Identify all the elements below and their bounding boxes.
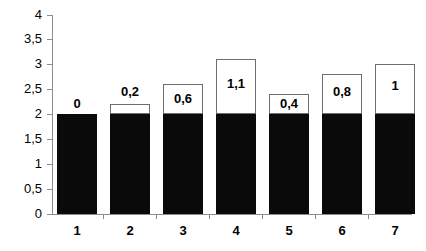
bar-3-base [163, 114, 203, 214]
x-tick-1 [103, 214, 104, 219]
x-tick-6 [368, 214, 369, 219]
y-tick-label-4: 2 [35, 107, 42, 120]
y-tick-label-6: 3 [35, 57, 42, 70]
x-axis-label-2: 2 [110, 224, 150, 238]
bar-6[interactable]: 0,8 [322, 15, 362, 214]
y-tick-8 [47, 15, 52, 16]
x-axis-label-1: 1 [57, 224, 97, 238]
x-axis-label-3: 3 [163, 224, 203, 238]
y-tick-1 [47, 189, 52, 190]
bar-7-value-label: 1 [375, 79, 415, 93]
bar-7[interactable]: 1 [375, 15, 415, 214]
y-tick-label-2: 1 [35, 157, 42, 170]
bar-4-value-label: 1,1 [216, 77, 256, 91]
bar-7-base [375, 114, 415, 214]
x-axis-label-7: 7 [375, 224, 415, 238]
bar-2-base [110, 114, 150, 214]
bar-1-value-label: 0 [57, 97, 97, 111]
y-tick-label-5: 2,5 [24, 82, 42, 95]
bar-3[interactable]: 0,6 [163, 15, 203, 214]
y-tick-0 [47, 214, 52, 215]
bar-1[interactable]: 0 [57, 15, 97, 214]
x-tick-5 [315, 214, 316, 219]
y-tick-label-7: 3,5 [24, 32, 42, 45]
bar-4-base [216, 114, 256, 214]
x-axis-line [52, 214, 412, 215]
x-axis-label-6: 6 [322, 224, 362, 238]
y-tick-label-0: 0 [35, 207, 42, 220]
x-tick-3 [209, 214, 210, 219]
x-tick-2 [156, 214, 157, 219]
y-tick-7 [47, 39, 52, 40]
bar-4[interactable]: 1,1 [216, 15, 256, 214]
bar-6-base [322, 114, 362, 214]
bar-6-value-label: 0,8 [322, 85, 362, 99]
y-tick-5 [47, 89, 52, 90]
bar-1-base [57, 114, 97, 214]
x-axis-label-4: 4 [216, 224, 256, 238]
bar-3-value-label: 0,6 [163, 92, 203, 106]
y-tick-label-3: 1,5 [24, 132, 42, 145]
bar-5-value-label: 0,4 [269, 97, 309, 111]
y-tick-label-1: 0,5 [24, 182, 42, 195]
y-tick-6 [47, 64, 52, 65]
bar-5[interactable]: 0,4 [269, 15, 309, 214]
y-tick-2 [47, 164, 52, 165]
y-tick-label-8: 4 [35, 8, 42, 21]
y-axis-line [52, 15, 53, 215]
bar-2[interactable]: 0,2 [110, 15, 150, 214]
x-axis-label-5: 5 [269, 224, 309, 238]
bar-chart: 0 0,5 1 1,5 2 2,5 3 3,5 4 0 0,2 0,6 1,1 [0, 0, 426, 251]
y-tick-3 [47, 139, 52, 140]
bar-2-value-label: 0,2 [110, 85, 150, 99]
bar-5-base [269, 114, 309, 214]
bar-2-increment [110, 104, 150, 114]
x-tick-4 [262, 214, 263, 219]
y-tick-4 [47, 114, 52, 115]
